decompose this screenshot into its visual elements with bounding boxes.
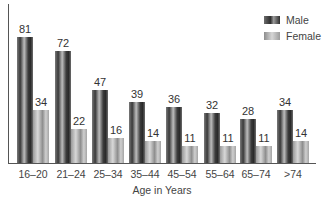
bar-chart: 813416–20722221–24471625–34391435–443611… [0,0,324,203]
female-value-label: 11 [249,132,279,144]
x-tick-label: 21–24 [51,168,91,180]
female-swatch-icon [264,32,280,40]
x-tick-label: 45–54 [162,168,202,180]
x-tick-label: 65–74 [236,168,276,180]
male-value-label: 28 [233,105,263,117]
y-axis [8,4,9,164]
female-bar [182,146,198,163]
female-value-label: 11 [175,132,205,144]
male-swatch-icon [264,16,280,24]
legend-label-female: Female [286,30,321,42]
female-bar [220,146,236,163]
x-axis [8,163,316,164]
x-axis-title: Age in Years [0,184,324,196]
male-value-label: 39 [122,88,152,100]
female-bar [145,141,161,163]
x-tick-label: 35–44 [125,168,165,180]
legend-item-female: Female [264,28,321,44]
male-value-label: 32 [197,99,227,111]
male-bar [55,51,71,163]
male-value-label: 34 [270,96,300,108]
x-tick-label: >74 [273,168,313,180]
female-bar [71,129,87,163]
female-value-label: 34 [26,96,56,108]
legend: Male Female [264,12,321,44]
female-bar [108,138,124,163]
male-value-label: 36 [159,93,189,105]
female-value-label: 22 [64,115,94,127]
female-value-label: 14 [138,127,168,139]
female-bar [256,146,272,163]
female-bar [33,110,49,163]
legend-item-male: Male [264,12,321,28]
x-tick-label: 16–20 [13,168,53,180]
male-value-label: 47 [85,76,115,88]
legend-label-male: Male [286,14,309,26]
x-tick-label: 25–34 [88,168,128,180]
male-value-label: 72 [48,37,78,49]
female-value-label: 11 [213,132,243,144]
female-value-label: 16 [101,124,131,136]
female-bar [293,141,309,163]
female-value-label: 14 [286,127,316,139]
male-value-label: 81 [10,23,40,35]
x-tick-label: 55–64 [200,168,240,180]
